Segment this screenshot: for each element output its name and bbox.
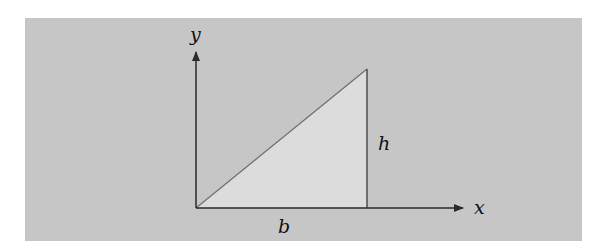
x-axis-label: x [474,196,485,218]
triangle-diagram: y x b h [0,0,597,250]
base-label: b [278,215,290,237]
y-axis-label: y [189,23,201,45]
height-label: h [378,132,390,154]
